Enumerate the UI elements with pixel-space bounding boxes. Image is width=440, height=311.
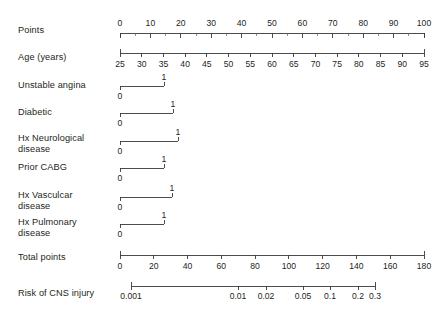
tick-label-6: 60 [298, 18, 308, 28]
tick-label-5: 50 [224, 59, 234, 69]
binary-value-1: 1 [176, 127, 181, 137]
tick-label-2: 20 [176, 18, 186, 28]
tick-label-8: 65 [289, 59, 299, 69]
tick-label-9: 90 [389, 18, 399, 28]
tick-label-3: 0.05 [295, 291, 312, 301]
tick-label-4: 40 [237, 18, 247, 28]
tick-label-7: 60 [267, 59, 277, 69]
tick-label-1: 20 [149, 261, 159, 271]
axis-row-1 [120, 49, 424, 57]
axis-row-7 [120, 220, 164, 228]
axis-row-9 [131, 282, 375, 290]
axis-row-6 [120, 193, 172, 201]
tick-label-10: 75 [332, 59, 342, 69]
binary-value-0: 0 [118, 91, 123, 101]
binary-value-1: 1 [170, 183, 175, 193]
tick-label-11: 80 [354, 59, 364, 69]
axis-row-5 [120, 164, 164, 172]
axis-row-2 [120, 82, 164, 90]
row-label-hx-vascular: Hx Vasculcar disease [18, 190, 73, 212]
axis-row-8 [120, 251, 424, 259]
tick-label-5: 100 [282, 261, 297, 271]
row-label-hx-pulmonary: Hx Pulmonary disease [18, 217, 77, 239]
row-label-unstable-angina: Unstable angina [18, 80, 86, 91]
binary-value-1: 1 [162, 210, 167, 220]
tick-label-2: 0.02 [258, 291, 275, 301]
tick-label-8: 80 [358, 18, 368, 28]
tick-label-9: 180 [417, 261, 432, 271]
tick-label-6: 55 [246, 59, 256, 69]
tick-label-5: 0.2 [352, 291, 364, 301]
binary-value-0: 0 [118, 173, 123, 183]
tick-label-14: 95 [419, 59, 429, 69]
row-label-points: Points [18, 25, 44, 36]
binary-value-0: 0 [118, 202, 123, 212]
tick-label-6: 120 [315, 261, 330, 271]
tick-label-0: 0 [118, 261, 123, 271]
tick-label-3: 60 [217, 261, 227, 271]
tick-label-6: 0.3 [369, 291, 381, 301]
row-label-age: Age (years) [18, 52, 67, 63]
nomogram-chart: Points Age (years) Unstable angina Diabe… [0, 0, 440, 311]
tick-label-3: 40 [180, 59, 190, 69]
row-label-total-points: Total points [18, 252, 66, 263]
binary-value-0: 0 [118, 146, 123, 156]
axis-row-3 [120, 109, 173, 117]
binary-value-0: 0 [118, 118, 123, 128]
row-label-diabetic: Diabetic [18, 107, 52, 118]
axis-row-0 [120, 33, 424, 38]
binary-value-0: 0 [118, 229, 123, 239]
tick-label-13: 90 [398, 59, 408, 69]
row-label-risk-cns: Risk of CNS injury [18, 288, 94, 299]
binary-value-1: 1 [171, 99, 176, 109]
tick-label-4: 80 [250, 261, 260, 271]
tick-label-7: 140 [349, 261, 364, 271]
tick-label-0: 25 [115, 59, 125, 69]
row-label-hx-neurological: Hx Neurological disease [18, 133, 84, 155]
tick-label-12: 85 [376, 59, 386, 69]
tick-label-2: 35 [159, 59, 169, 69]
nomogram-axes: 0102030405060708090100253035404550556065… [0, 0, 440, 311]
tick-label-0: 0.001 [120, 291, 142, 301]
tick-label-7: 70 [328, 18, 338, 28]
tick-label-0: 0 [118, 18, 123, 28]
tick-label-10: 100 [417, 18, 432, 28]
tick-label-1: 10 [146, 18, 156, 28]
axis-row-4 [120, 137, 178, 145]
tick-label-5: 50 [267, 18, 277, 28]
tick-label-2: 40 [183, 261, 193, 271]
tick-label-1: 0.01 [230, 291, 247, 301]
row-label-prior-cabg: Prior CABG [18, 162, 67, 173]
binary-value-1: 1 [162, 154, 167, 164]
tick-label-4: 0.1 [324, 291, 336, 301]
tick-label-9: 70 [311, 59, 321, 69]
tick-label-3: 30 [206, 18, 216, 28]
binary-value-1: 1 [162, 72, 167, 82]
tick-label-1: 30 [137, 59, 147, 69]
tick-label-8: 160 [383, 261, 398, 271]
tick-label-4: 45 [202, 59, 212, 69]
